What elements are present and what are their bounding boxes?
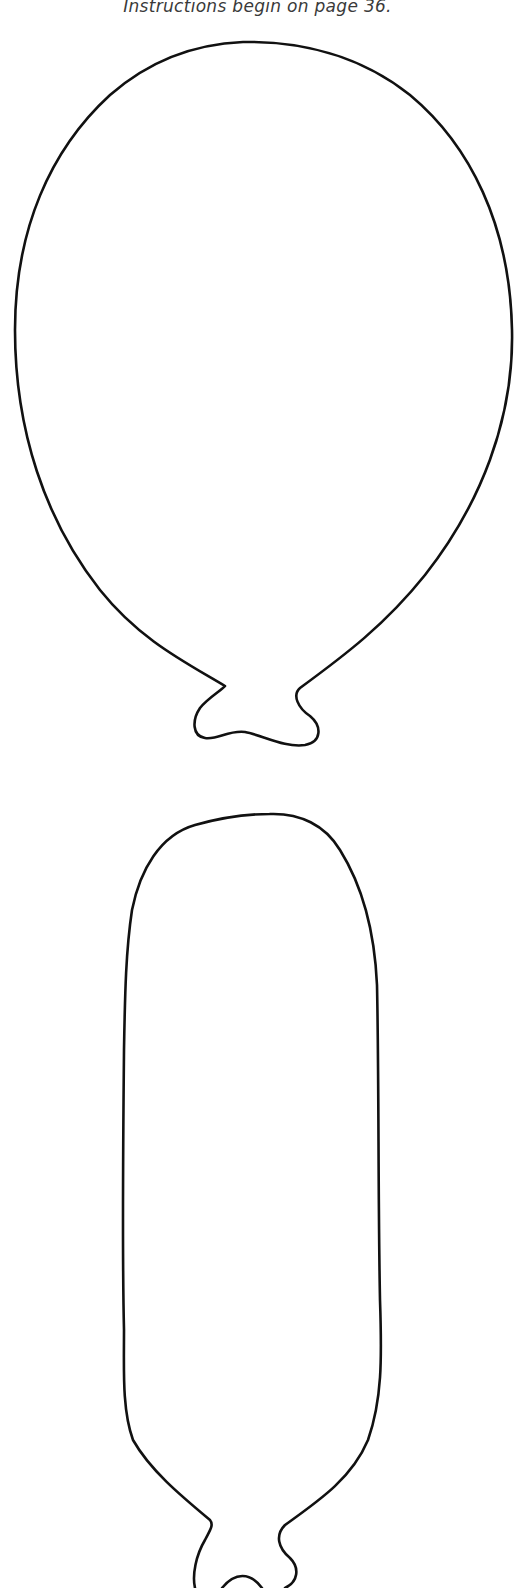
long-balloon-outline [123, 814, 381, 1588]
round-balloon-template [15, 42, 512, 745]
template-canvas [0, 0, 515, 1588]
long-balloon-template [123, 814, 381, 1588]
round-balloon-outline [15, 42, 512, 745]
